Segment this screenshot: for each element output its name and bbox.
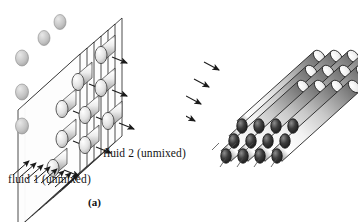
panel-a-fluid2-label: fluid 2 (unmixed) bbox=[103, 148, 186, 160]
figure-panel-b: fluid 1 (mixed) fluid 2 (unmixed) (b) bbox=[186, 0, 358, 222]
fluid1-crossflow-arrows bbox=[186, 62, 219, 121]
figure-root: fluid 1 (unmixed) fluid 2 (unmixed) (a) bbox=[0, 0, 358, 222]
plate-fin-heat-exchanger-diagram bbox=[0, 0, 186, 222]
panel-a-caption: (a) bbox=[88, 196, 101, 208]
tube-bundle-heat-exchanger-diagram bbox=[186, 0, 358, 222]
panel-a-fluid1-label: fluid 1 (unmixed) bbox=[8, 174, 91, 186]
figure-panel-a: fluid 1 (unmixed) fluid 2 (unmixed) (a) bbox=[0, 0, 186, 222]
